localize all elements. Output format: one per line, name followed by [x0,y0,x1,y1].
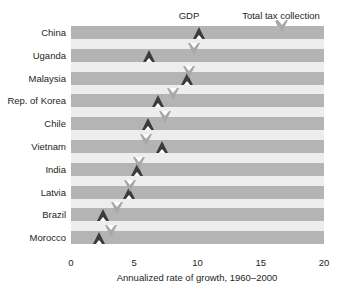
chart-container: GDP Total tax collection ChinaUgandaMala… [0,0,338,298]
x-axis-tick-label: 0 [68,257,73,268]
total-tax-collection-marker [183,66,195,78]
total-tax-collection-marker [133,157,145,169]
gdp-marker [142,118,154,130]
gdp-marker [156,141,168,153]
category-label: Morocco [30,231,66,244]
category-label: Malaysia [29,72,67,85]
row-gap [71,130,324,140]
total-tax-collection-marker [111,202,123,214]
row-gap [71,199,324,209]
category-label: Latvia [41,186,66,199]
x-axis-tick-label: 10 [192,257,203,268]
total-tax-collection-marker [140,134,152,146]
category-label: Rep. of Korea [7,94,66,107]
category-band [71,117,324,130]
category-label: Vietnam [31,140,66,153]
total-tax-collection-marker [276,20,288,32]
total-tax-collection-marker [159,111,171,123]
category-band [71,186,324,199]
category-band [71,72,324,85]
category-band [71,208,324,221]
gdp-marker [143,50,155,62]
plot-area: ChinaUgandaMalaysiaRep. of KoreaChileVie… [71,26,324,254]
gdp-marker [152,95,164,107]
total-tax-collection-marker [167,88,179,100]
row-gap [71,153,324,163]
category-label: Chile [44,117,66,130]
category-label: Brazil [42,208,66,221]
category-label: Uganda [33,49,66,62]
x-axis-tick-label: 20 [319,257,330,268]
total-tax-collection-marker [105,225,117,237]
gdp-marker [193,27,205,39]
row-gap [71,107,324,117]
category-band [71,163,324,176]
x-axis-tick-label: 5 [132,257,137,268]
category-band [71,140,324,153]
category-label: India [45,163,66,176]
category-band [71,94,324,107]
x-axis-title: Annualized rate of growth, 1960–2000 [117,272,278,283]
category-label: China [41,26,66,39]
row-gap [71,62,324,72]
gdp-marker [97,209,109,221]
legend-label-gdp: GDP [179,10,200,21]
total-tax-collection-marker [188,43,200,55]
row-gap [71,176,324,186]
total-tax-collection-marker [124,180,136,192]
row-gap [71,85,324,95]
gdp-marker [93,232,105,244]
x-axis-tick-label: 15 [255,257,266,268]
